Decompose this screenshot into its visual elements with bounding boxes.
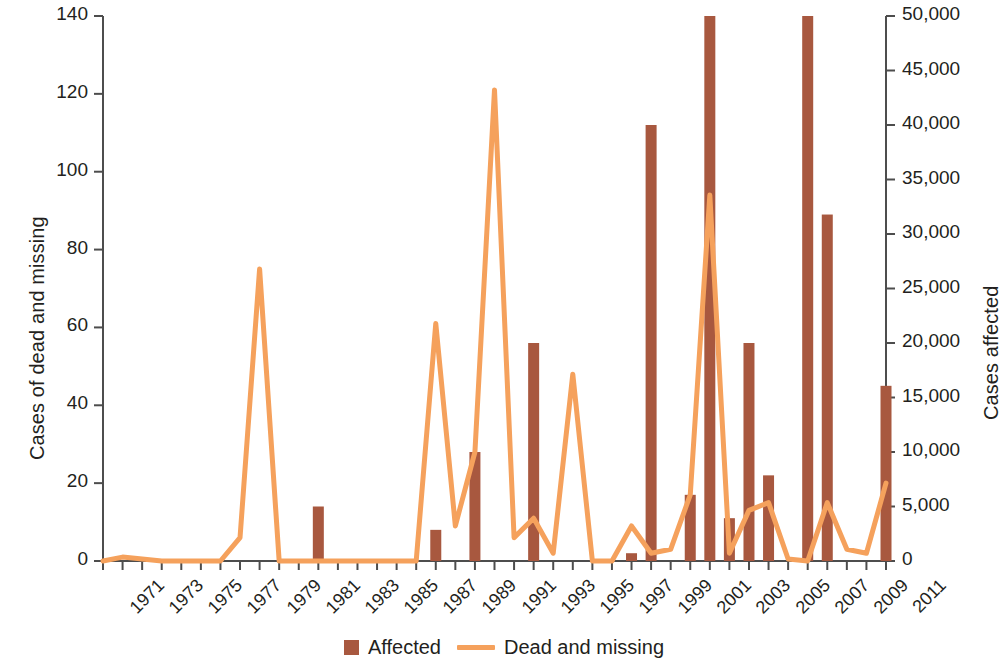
y-tick-label-left: 120 <box>14 81 88 103</box>
y-tick-label-right: 10,000 <box>902 439 960 461</box>
y-tick-label-right: 0 <box>902 548 913 570</box>
y-tick-label-left: 140 <box>14 3 88 25</box>
bar <box>743 343 754 561</box>
legend-item-dead-and-missing[interactable]: Dead and missing <box>457 636 664 659</box>
legend-line-swatch-icon <box>457 645 495 650</box>
y-tick-label-right: 15,000 <box>902 385 960 407</box>
y-tick-label-right: 30,000 <box>902 221 960 243</box>
legend-bar-swatch-icon <box>344 640 359 655</box>
bar <box>646 125 657 561</box>
y-tick-label-right: 35,000 <box>902 167 960 189</box>
chart-legend: AffectedDead and missing <box>0 636 1008 659</box>
y-tick-label-right: 40,000 <box>902 112 960 134</box>
y-tick-label-right: 25,000 <box>902 276 960 298</box>
bar-series <box>313 16 892 561</box>
chart-container: Cases of dead and missing Cases affected… <box>0 0 1008 664</box>
bar <box>430 530 441 561</box>
y-tick-label-left: 100 <box>14 159 88 181</box>
y-tick-label-right: 50,000 <box>902 3 960 25</box>
y-tick-label-right: 45,000 <box>902 58 960 80</box>
y-tick-label-left: 60 <box>14 314 88 336</box>
legend-item-affected[interactable]: Affected <box>344 636 441 659</box>
y-tick-label-right: 5,000 <box>902 494 950 516</box>
legend-label: Affected <box>368 636 441 659</box>
bar <box>881 386 892 561</box>
bar <box>626 553 637 561</box>
legend-label: Dead and missing <box>504 636 664 659</box>
y-tick-label-left: 20 <box>14 470 88 492</box>
y-tick-label-left: 40 <box>14 392 88 414</box>
y-tick-label-right: 20,000 <box>902 330 960 352</box>
bar <box>313 507 324 562</box>
plot-area <box>0 0 1008 664</box>
y-tick-label-left: 0 <box>14 548 88 570</box>
y-tick-label-left: 80 <box>14 237 88 259</box>
bar <box>802 16 813 561</box>
